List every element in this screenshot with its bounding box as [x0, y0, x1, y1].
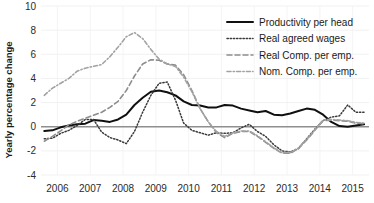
y-tick-label: 6 [30, 49, 36, 60]
y-tick-label: -2 [27, 145, 36, 156]
x-tick-label: 2009 [145, 183, 168, 194]
x-tick-label: 2014 [309, 183, 332, 194]
x-tick-label: 2013 [276, 183, 299, 194]
legend-label-3: Nom. Comp. per emp. [259, 66, 357, 77]
x-tick-label: 2008 [112, 183, 135, 194]
y-tick-label: 0 [30, 121, 36, 132]
legend-label-2: Real Comp. per emp. [259, 50, 354, 61]
x-tick-label: 2015 [341, 183, 364, 194]
x-tick-label: 2011 [211, 183, 233, 194]
y-tick-label: 2 [30, 97, 36, 108]
legend-label-1: Real agreed wages [259, 33, 345, 44]
y-axis-title: Yearly percentage change [3, 41, 14, 158]
legend-label-0: Productivity per head [259, 17, 353, 28]
x-tick-label: 2010 [177, 183, 200, 194]
x-tick-label: 2007 [79, 183, 102, 194]
y-tick-label: 4 [30, 73, 36, 84]
y-tick-label: 10 [25, 1, 37, 12]
line-chart: -4-20246810 2006200720082009201020112012… [0, 0, 374, 203]
y-tick-label: 8 [30, 25, 36, 36]
chart-container: -4-20246810 2006200720082009201020112012… [0, 0, 374, 203]
y-tick-label: -4 [27, 170, 36, 181]
x-tick-label: 2012 [243, 183, 266, 194]
x-tick-label: 2006 [46, 183, 69, 194]
